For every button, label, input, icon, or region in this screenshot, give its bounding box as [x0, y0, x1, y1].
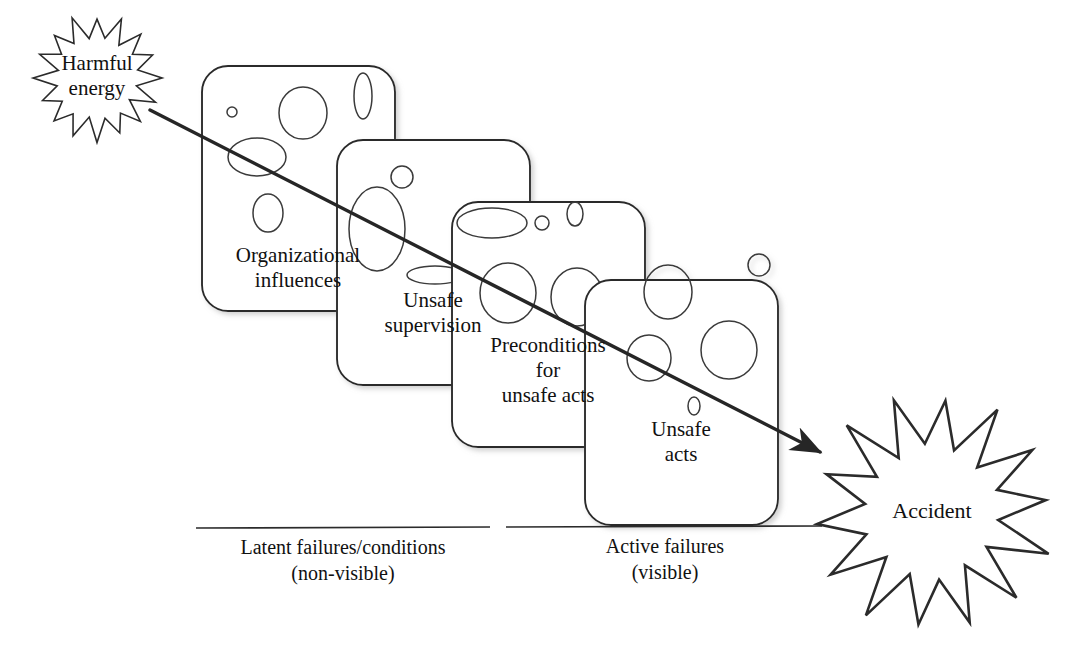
harmful-energy-burst-shape — [33, 18, 162, 143]
caption-rule-latent-failures — [196, 527, 490, 528]
accident-burst — [817, 400, 1049, 624]
layer-hole — [748, 254, 770, 276]
harmful-energy-burst — [33, 18, 162, 143]
layer-card-surface — [585, 280, 778, 525]
layer-cards-group — [202, 66, 778, 525]
diagram-canvas — [0, 0, 1084, 670]
swiss-cheese-diagram: Harmful energy Organizational influences… — [0, 0, 1084, 670]
layer-card-unsafe-acts — [585, 254, 778, 525]
caption-rule-active-failures — [506, 526, 822, 527]
accident-burst-shape — [817, 400, 1049, 624]
caption-rules-group — [196, 526, 822, 528]
